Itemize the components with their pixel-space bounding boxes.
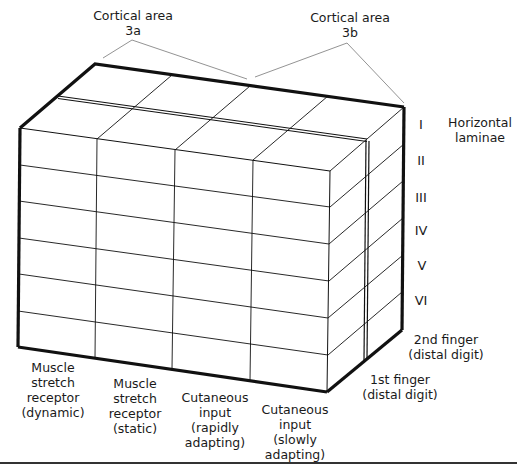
lamina-label-6: VI — [409, 293, 433, 308]
label-first-finger: 1st finger (distal digit) — [350, 372, 450, 402]
lamina-label-4: IV — [409, 223, 433, 238]
label-column-slowly-adapting: Cutaneous input (slowly adapting) — [255, 402, 335, 462]
front-face — [18, 128, 330, 392]
lamina-label-1: I — [409, 117, 433, 132]
right-face — [327, 107, 404, 392]
lamina-label-2: II — [409, 153, 433, 168]
label-cortical-area-3a: Cortical area 3a — [88, 8, 178, 38]
label-cortical-area-3b: Cortical area 3b — [305, 10, 395, 40]
bottom-rule — [0, 462, 517, 464]
label-second-finger: 2nd finger (distal digit) — [396, 332, 496, 362]
label-column-static-stretch: Muscle stretch receptor (static) — [100, 376, 170, 436]
label-column-rapidly-adapting: Cutaneous input (rapidly adapting) — [175, 390, 255, 450]
top-face — [20, 64, 404, 171]
label-horizontal-laminae: Horizontal laminae — [440, 115, 517, 145]
label-column-dynamic-stretch: Muscle stretch receptor (dynamic) — [18, 360, 88, 420]
lamina-label-5: V — [410, 258, 434, 273]
lamina-label-3: III — [409, 190, 433, 205]
